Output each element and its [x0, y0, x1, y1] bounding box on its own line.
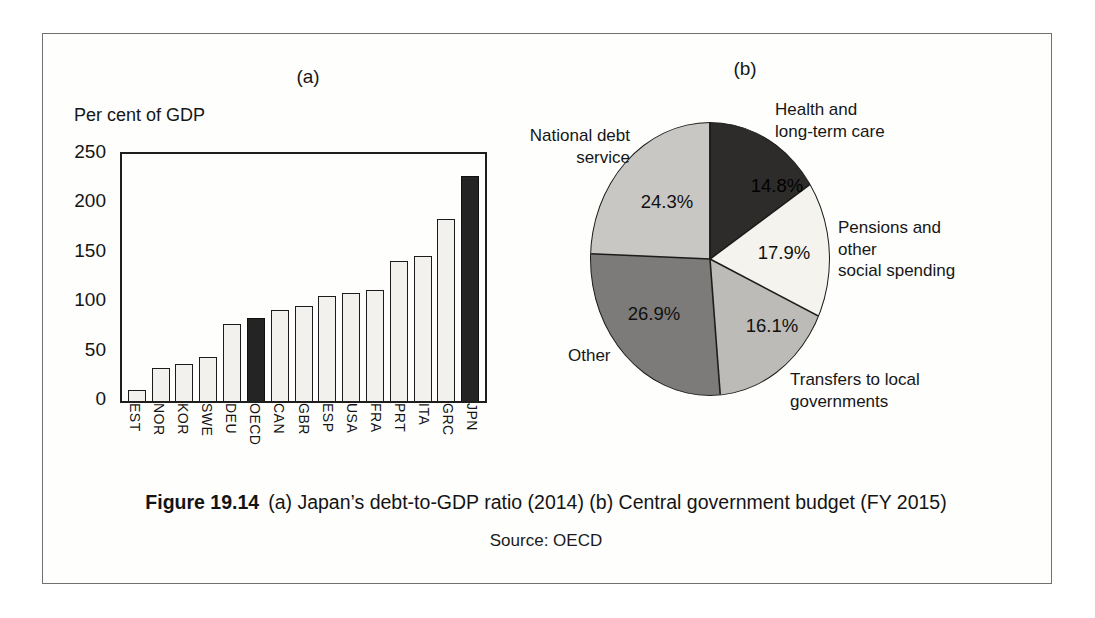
y-axis-title: Per cent of GDP [74, 105, 205, 126]
y-axis-tick-label: 50 [85, 338, 106, 360]
x-axis-label-cell: NOR [150, 403, 168, 445]
pie-label-transfers-local-governments: Transfers to local governments [790, 369, 920, 412]
x-axis-label-cell: OECD [246, 403, 264, 445]
pie-label-pensions-social-spending: Pensions and other social spending [838, 217, 955, 282]
bar-can [271, 310, 289, 401]
bar-gbr [295, 306, 313, 401]
y-axis-tick-label: 200 [74, 190, 106, 212]
bar-esp [318, 296, 336, 401]
bar-grc [437, 219, 455, 401]
x-axis-label-cell: ITA [415, 403, 433, 445]
x-axis-label-grc: GRC [440, 403, 456, 445]
x-axis-label-cell: USA [343, 403, 361, 445]
x-axis-label-nor: NOR [151, 403, 167, 445]
y-axis-tick-labels: 250200150100500 [58, 152, 112, 399]
x-axis-label-kor: KOR [175, 403, 191, 445]
x-axis-label-fra: FRA [368, 403, 384, 445]
x-axis-label-can: CAN [271, 403, 287, 445]
figure-caption: Figure 19.14(a) Japan’s debt-to-GDP rati… [42, 491, 1050, 514]
bar-kor [175, 364, 193, 401]
bar-fra [366, 290, 384, 401]
x-axis-label-cell: KOR [174, 403, 192, 445]
bar-oecd [247, 318, 265, 401]
bar-est [128, 390, 146, 401]
x-axis-label-prt: PRT [392, 403, 408, 445]
bar-usa [342, 293, 360, 401]
textbook-figure: (a) (b) Per cent of GDP 250200150100500 … [0, 0, 1095, 618]
figure-number: Figure 19.14 [145, 491, 259, 513]
pie-label-health-long-term-care: Health and long-term care [775, 99, 885, 142]
bar-chart-plot-area [120, 152, 487, 403]
x-axis-label-swe: SWE [199, 403, 215, 445]
x-axis-label-cell: JPN [463, 403, 481, 445]
pie-divider-line [591, 248, 710, 259]
x-axis-label-usa: USA [344, 403, 360, 445]
pie-label-national-debt-service: National debt service [470, 125, 630, 168]
bar-deu [223, 324, 241, 401]
x-axis-label-gbr: GBR [296, 403, 312, 445]
x-axis-label-cell: SWE [198, 403, 216, 445]
x-axis-label-esp: ESP [320, 403, 336, 445]
pie-value-label: 16.1% [746, 315, 798, 337]
x-axis-label-deu: DEU [223, 403, 239, 445]
x-axis-label-ita: ITA [416, 403, 432, 445]
panel-a-label: (a) [278, 66, 338, 88]
pie-label-other: Other [568, 345, 611, 367]
pie-divider-line [710, 259, 729, 395]
x-axis-label-cell: CAN [270, 403, 288, 445]
figure-source: Source: OECD [42, 531, 1050, 551]
y-axis-tick-label: 250 [74, 141, 106, 163]
bar-nor [152, 368, 170, 401]
x-axis-label-cell: FRA [367, 403, 385, 445]
x-axis-label-est: EST [127, 403, 143, 445]
panel-b-label: (b) [715, 58, 775, 80]
pie-value-label: 14.8% [751, 175, 803, 197]
x-axis-label-cell: ESP [319, 403, 337, 445]
pie-value-label: 17.9% [758, 242, 810, 264]
x-axis-labels: ESTNORKORSWEDEUOECDCANGBRESPUSAFRAPRTITA… [120, 403, 487, 445]
x-axis-label-oecd: OECD [247, 403, 263, 445]
y-axis-tick-label: 150 [74, 239, 106, 261]
bar-prt [390, 261, 408, 401]
x-axis-label-cell: DEU [222, 403, 240, 445]
x-axis-label-cell: EST [126, 403, 144, 445]
bar-swe [199, 357, 217, 401]
bar-ita [414, 256, 432, 401]
pie-value-label: 24.3% [641, 191, 693, 213]
x-axis-label-jpn: JPN [464, 403, 480, 445]
y-axis-tick-label: 0 [95, 388, 106, 410]
x-axis-label-cell: GRC [439, 403, 457, 445]
x-axis-label-cell: GBR [295, 403, 313, 445]
pie-value-label: 26.9% [628, 303, 680, 325]
figure-caption-text: (a) Japan’s debt-to-GDP ratio (2014) (b)… [268, 491, 947, 513]
y-axis-tick-label: 100 [74, 289, 106, 311]
bar-jpn [461, 176, 479, 401]
x-axis-label-cell: PRT [391, 403, 409, 445]
bar-series [122, 154, 485, 401]
